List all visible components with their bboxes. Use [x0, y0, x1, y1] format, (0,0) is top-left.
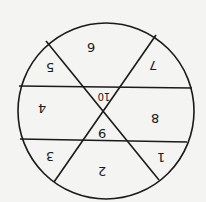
circle-diagram: 67510489312 — [0, 0, 206, 202]
region-label: 1 — [157, 151, 165, 164]
region-label: 6 — [87, 41, 95, 54]
region-label: 7 — [149, 59, 157, 72]
region-label: 2 — [98, 165, 106, 178]
region-label: 10 — [98, 91, 111, 101]
divider-line-1 — [19, 86, 192, 88]
region-label: 5 — [46, 61, 54, 74]
divider-line-4 — [54, 35, 156, 182]
region-label: 3 — [46, 150, 54, 163]
divider-line-3 — [46, 41, 159, 180]
region-label: 4 — [38, 102, 46, 115]
region-label: 9 — [98, 127, 106, 140]
region-label: 8 — [151, 112, 159, 125]
